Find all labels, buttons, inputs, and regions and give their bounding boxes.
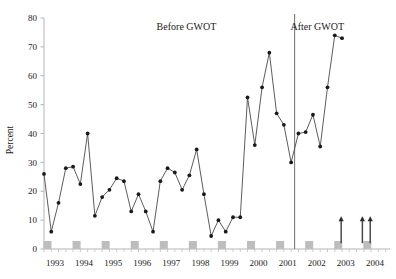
data-point <box>173 171 177 175</box>
data-point <box>282 123 286 127</box>
data-point <box>253 143 257 147</box>
chart-container: 01020304050607080 1993199419951996199719… <box>0 0 396 279</box>
data-point <box>71 165 75 169</box>
data-point <box>86 132 90 136</box>
data-point <box>224 230 228 234</box>
data-point <box>158 179 162 183</box>
data-point <box>333 33 337 37</box>
data-point <box>326 85 330 89</box>
data-point <box>166 166 170 170</box>
data-point <box>260 85 264 89</box>
data-point <box>340 36 344 40</box>
y-tick-label: 10 <box>28 215 38 225</box>
data-point <box>318 145 322 149</box>
baseline-year-marker <box>218 241 226 249</box>
data-point <box>289 160 293 164</box>
data-point <box>311 113 315 117</box>
baseline-year-marker <box>247 241 255 249</box>
y-tick-label: 40 <box>28 129 38 139</box>
data-point <box>195 147 199 151</box>
x-tick-label: 2003 <box>337 258 356 268</box>
data-point <box>267 51 271 55</box>
data-point <box>304 130 308 134</box>
y-axis-title: Percent <box>5 125 15 154</box>
baseline-year-marker <box>189 241 197 249</box>
data-point <box>78 182 82 186</box>
data-point <box>297 132 301 136</box>
data-point <box>275 111 279 115</box>
y-tick-label: 70 <box>28 42 38 52</box>
y-tick-label: 30 <box>28 158 38 168</box>
x-tick-label: 1999 <box>221 258 240 268</box>
data-point <box>129 210 133 214</box>
data-point <box>180 188 184 192</box>
y-tick-label: 80 <box>28 13 38 23</box>
data-point <box>137 192 141 196</box>
data-point <box>49 230 53 234</box>
chart-background <box>0 0 396 279</box>
x-tick-label: 1994 <box>75 258 94 268</box>
before-gwot-label: Before GWOT <box>157 21 217 32</box>
baseline-year-marker <box>131 241 139 249</box>
x-tick-label: 1998 <box>191 258 210 268</box>
data-point <box>122 179 126 183</box>
x-tick-label: 2002 <box>308 258 326 268</box>
x-tick-label: 2001 <box>279 258 297 268</box>
x-tick-label: 1997 <box>162 258 181 268</box>
y-tick-label: 20 <box>28 186 38 196</box>
y-tick-label: 60 <box>28 71 38 81</box>
x-tick-label: 1993 <box>46 258 65 268</box>
data-point <box>144 210 148 214</box>
data-point <box>246 96 250 100</box>
data-point <box>217 218 221 222</box>
data-point <box>231 215 235 219</box>
after-gwot-label: After GWOT <box>291 21 345 32</box>
data-point <box>64 166 68 170</box>
baseline-year-marker <box>73 241 81 249</box>
data-point <box>100 195 104 199</box>
line-chart: 01020304050607080 1993199419951996199719… <box>0 0 396 279</box>
data-point <box>151 230 155 234</box>
x-tick-label: 2000 <box>250 258 269 268</box>
data-point <box>202 192 206 196</box>
data-point <box>115 176 119 180</box>
data-point <box>93 214 97 218</box>
y-tick-label: 0 <box>33 244 38 254</box>
data-point <box>108 188 112 192</box>
x-tick-label: 1995 <box>104 258 123 268</box>
baseline-year-marker <box>305 241 313 249</box>
y-tick-label: 50 <box>28 100 38 110</box>
data-point <box>187 173 191 177</box>
baseline-year-marker <box>102 241 110 249</box>
baseline-year-marker <box>160 241 168 249</box>
baseline-year-marker <box>276 241 284 249</box>
baseline-year-marker <box>43 241 51 249</box>
data-point <box>238 215 242 219</box>
data-point <box>209 234 213 238</box>
x-tick-label: 2004 <box>366 258 385 268</box>
data-point <box>57 201 61 205</box>
x-tick-label: 1996 <box>133 258 152 268</box>
data-point <box>42 172 46 176</box>
